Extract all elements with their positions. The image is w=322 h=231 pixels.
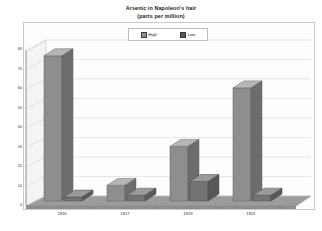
x-tick-1816: 1816	[42, 211, 82, 216]
legend-label-low: Low	[188, 32, 196, 37]
legend-swatch-low-icon	[180, 32, 186, 38]
x-tick-1817: 1817	[105, 211, 145, 216]
y-tick-50: 50	[10, 106, 22, 110]
x-tick-1819: 1819	[168, 211, 208, 216]
legend-swatch-high-icon	[141, 32, 147, 38]
chart-legend: High Low	[128, 28, 208, 41]
y-tick-30: 30	[10, 145, 22, 149]
legend-label-high: High	[148, 32, 157, 37]
legend-entry-high: High	[141, 32, 157, 38]
chart-container: Arsenic in Napoleon's hair (parts per mi…	[0, 0, 322, 231]
bar-1819-low	[190, 175, 219, 202]
y-tick-10: 10	[10, 184, 22, 188]
y-tick-80: 80	[10, 47, 22, 51]
y-tick-0: 0	[10, 203, 22, 207]
bar-1821-high	[233, 81, 262, 201]
x-tick-1821: 1821	[231, 211, 271, 216]
legend-entry-low: Low	[180, 32, 195, 38]
y-tick-20: 20	[10, 164, 22, 168]
y-tick-70: 70	[10, 67, 22, 71]
y-tick-40: 40	[10, 125, 22, 129]
y-tick-60: 60	[10, 86, 22, 90]
bar-1816-high	[44, 49, 73, 201]
floor-front-edge	[26, 206, 296, 209]
